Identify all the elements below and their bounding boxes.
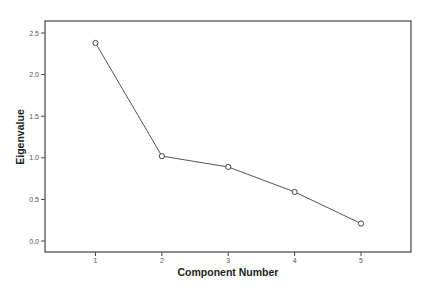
y-axis-title: Eigenvalue [14,109,26,165]
plot-frame [45,21,411,252]
x-tick-label: 2 [160,257,164,264]
x-axis-ticks: 12345 [94,252,364,264]
y-tick-label: 2.0 [29,71,39,78]
y-axis-ticks: 0.00.51.01.52.02.5 [29,30,45,245]
x-tick-label: 5 [359,257,363,264]
x-axis-title: Component Number [178,266,279,278]
x-tick-label: 1 [94,257,98,264]
scree-plot: 0.00.51.01.52.02.5 12345 Component Numbe… [0,0,431,288]
data-point-marker [226,164,231,169]
y-tick-label: 2.5 [29,30,39,37]
data-point-marker [159,154,164,159]
y-tick-label: 0.5 [29,196,39,203]
x-tick-label: 4 [293,257,297,264]
data-point-marker [292,189,297,194]
data-point-marker [93,40,98,45]
data-point-marker [358,221,363,226]
y-tick-label: 1.5 [29,113,39,120]
x-tick-label: 3 [226,257,230,264]
y-tick-label: 0.0 [29,238,39,245]
y-tick-label: 1.0 [29,154,39,161]
